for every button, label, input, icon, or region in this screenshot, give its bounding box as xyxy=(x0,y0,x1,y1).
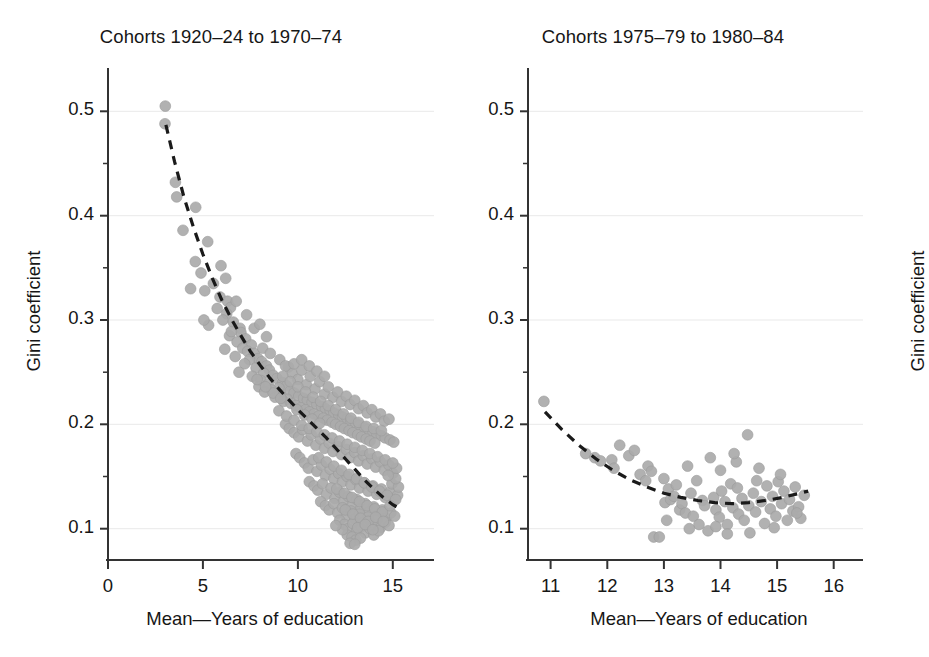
scatter-point xyxy=(255,319,266,330)
scatter-point xyxy=(682,461,693,472)
scatter-point xyxy=(539,396,550,407)
scatter-point xyxy=(190,256,201,267)
scatter-point xyxy=(686,488,697,499)
scatter-point xyxy=(654,532,665,543)
y-axis-tick-label: 0.3 xyxy=(462,307,514,329)
scatter-point xyxy=(265,348,276,359)
x-axis-tick-label: 0 xyxy=(78,575,138,597)
scatter-point xyxy=(694,519,705,530)
y-axis-tick-label: 0.2 xyxy=(42,411,94,433)
scatter-point xyxy=(640,475,651,486)
scatter-point xyxy=(384,414,395,425)
scatter-point xyxy=(202,236,213,247)
scatter-point xyxy=(715,465,726,476)
y-axis-tick-label: 0.3 xyxy=(42,307,94,329)
y-axis-tick-label: 0.1 xyxy=(462,516,514,538)
scatter-point xyxy=(716,486,727,497)
scatter-point xyxy=(218,315,229,326)
scatter-point xyxy=(722,529,733,540)
x-axis-tick-label: 12 xyxy=(577,575,637,597)
scatter-point xyxy=(748,488,759,499)
scatter-point xyxy=(275,393,286,404)
x-axis-tick-label: 16 xyxy=(804,575,864,597)
scatter-point xyxy=(711,521,722,532)
scatter-point xyxy=(732,483,743,494)
scatter-point xyxy=(646,466,657,477)
panel-right-y-axis-label: Gini coefficient xyxy=(907,236,929,386)
scatter-point xyxy=(368,524,379,535)
x-axis-tick-label: 14 xyxy=(690,575,750,597)
scatter-point xyxy=(319,371,330,382)
scatter-point xyxy=(387,458,398,469)
scatter-points-group xyxy=(539,396,810,542)
scatter-point xyxy=(659,473,670,484)
scatter-point xyxy=(389,511,400,522)
scatter-point xyxy=(378,516,389,527)
scatter-point xyxy=(739,515,750,526)
y-axis-tick-label: 0.1 xyxy=(42,516,94,538)
scatter-point xyxy=(759,518,770,529)
scatter-point xyxy=(750,507,761,518)
y-axis-tick-label: 0.4 xyxy=(42,203,94,225)
x-axis-tick-label: 5 xyxy=(173,575,233,597)
scatter-point xyxy=(771,511,782,522)
scatter-point xyxy=(231,296,242,307)
x-axis-tick-label: 13 xyxy=(634,575,694,597)
scatter-point xyxy=(230,351,241,362)
scatter-point xyxy=(199,315,210,326)
scatter-point xyxy=(769,522,780,533)
scatter-point xyxy=(199,285,210,296)
scatter-point xyxy=(330,520,341,531)
scatter-point xyxy=(185,283,196,294)
scatter-point xyxy=(260,381,271,392)
scatter-point xyxy=(388,437,399,448)
scatter-point xyxy=(383,470,394,481)
scatter-point xyxy=(754,463,765,474)
scatter-point xyxy=(629,445,640,456)
scatter-point xyxy=(219,344,230,355)
x-axis-tick-label: 15 xyxy=(747,575,807,597)
scatter-point xyxy=(234,367,245,378)
scatter-point xyxy=(751,475,762,486)
scatter-point xyxy=(691,475,702,486)
scatter-point xyxy=(684,523,695,534)
scatter-point xyxy=(241,309,252,320)
scatter-point xyxy=(160,101,171,112)
scatter-point xyxy=(782,515,793,526)
scatter-point xyxy=(775,469,786,480)
x-axis-tick-label: 15 xyxy=(363,575,423,597)
scatter-point xyxy=(178,225,189,236)
scatter-point xyxy=(323,381,334,392)
scatter-point xyxy=(196,268,207,279)
scatter-point xyxy=(790,482,801,493)
y-axis-tick-label: 0.2 xyxy=(462,411,514,433)
y-axis-tick-label: 0.5 xyxy=(42,98,94,120)
scatter-point xyxy=(220,273,231,284)
scatter-point xyxy=(212,303,223,314)
scatter-point xyxy=(792,508,803,519)
scatter-point xyxy=(762,481,773,492)
scatter-point xyxy=(661,515,672,526)
y-axis-tick-label: 0.4 xyxy=(462,203,514,225)
scatter-point xyxy=(216,260,227,271)
scatter-point xyxy=(252,374,263,385)
scatter-point xyxy=(742,429,753,440)
scatter-point xyxy=(729,448,740,459)
scatter-point xyxy=(190,202,201,213)
scatter-point xyxy=(671,480,682,491)
scatter-point xyxy=(261,331,272,342)
scatter-point xyxy=(349,539,360,550)
scatter-point xyxy=(376,425,387,436)
scatter-point xyxy=(705,452,716,463)
scatter-point xyxy=(745,528,756,539)
scatter-point xyxy=(171,192,182,203)
scatter-point xyxy=(369,438,380,449)
x-axis-tick-label: 10 xyxy=(268,575,328,597)
y-axis-tick-label: 0.5 xyxy=(462,98,514,120)
scatter-point xyxy=(614,440,625,451)
x-axis-tick-label: 11 xyxy=(521,575,581,597)
